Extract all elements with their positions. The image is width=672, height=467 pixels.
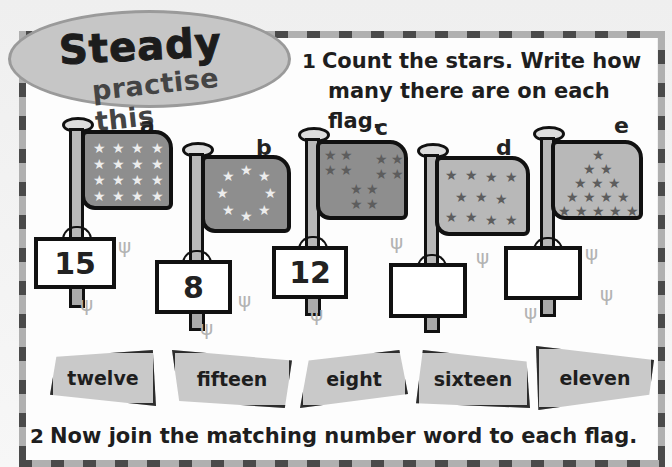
- star-icon: ★: [264, 186, 277, 200]
- star-icon: ★: [609, 204, 622, 218]
- star-icon: ★: [592, 148, 605, 162]
- flag-e-letter: e: [614, 113, 629, 138]
- star-icon: ★: [258, 169, 271, 183]
- star-icon: ★: [445, 168, 458, 182]
- word-card-label: fifteen: [197, 368, 268, 390]
- grass-icon: ψ: [310, 304, 323, 324]
- star-icon: ★: [391, 152, 404, 166]
- word-card-label: twelve: [67, 367, 138, 389]
- flag-d: ★ ★ ★ ★ ★ ★ ★ ★ ★ ★ ★: [435, 156, 530, 236]
- flag-b-answer-box[interactable]: 8: [155, 260, 232, 314]
- star-icon: ★: [258, 203, 271, 217]
- star-icon: ★: [600, 162, 613, 176]
- star-icon: ★: [566, 190, 579, 204]
- flag-c-answer-box[interactable]: 12: [272, 246, 348, 299]
- grass-icon: ψ: [524, 302, 537, 322]
- flag-c: ★ ★ ★ ★ ★ ★ ★ ★ ★ ★ ★ ★: [316, 140, 408, 220]
- flag-b-answer: 8: [183, 270, 204, 305]
- star-icon: ★: [324, 163, 337, 177]
- dashed-border-bottom: [19, 460, 665, 467]
- question-1-number: 1: [302, 49, 316, 73]
- star-icon: ★: [375, 152, 388, 166]
- grass-icon: ψ: [238, 290, 251, 310]
- star-icon: ★: [112, 173, 125, 187]
- star-icon: ★: [475, 190, 488, 204]
- word-card-label: eight: [326, 368, 382, 390]
- grass-icon: ψ: [200, 318, 213, 338]
- star-icon: ★: [495, 192, 508, 206]
- star-icon: ★: [93, 173, 106, 187]
- flag-e-answer-box[interactable]: [504, 246, 582, 300]
- star-icon: ★: [626, 204, 639, 218]
- question-1-line-2: many there are on each flag.: [302, 76, 652, 136]
- question-2: 2Now join the matching number word to ea…: [30, 421, 650, 451]
- question-1-line-1: Count the stars. Write how: [322, 49, 641, 73]
- star-icon: ★: [222, 203, 235, 217]
- word-card-label: eleven: [559, 367, 630, 389]
- star-icon: ★: [391, 167, 404, 181]
- star-icon: ★: [445, 210, 458, 224]
- star-icon: ★: [583, 162, 596, 176]
- star-icon: ★: [151, 173, 164, 187]
- star-icon: ★: [558, 204, 571, 218]
- word-card-label: sixteen: [434, 368, 512, 390]
- question-2-text: Now join the matching number word to eac…: [50, 424, 637, 448]
- star-icon: ★: [465, 168, 478, 182]
- star-icon: ★: [366, 182, 379, 196]
- flag-c-letter: c: [375, 115, 388, 140]
- star-icon: ★: [340, 163, 353, 177]
- question-2-number: 2: [30, 424, 44, 448]
- star-icon: ★: [93, 189, 106, 203]
- star-icon: ★: [151, 141, 164, 155]
- star-icon: ★: [505, 213, 518, 227]
- section-badge: Steady practise this: [8, 10, 291, 108]
- star-icon: ★: [350, 197, 363, 211]
- star-icon: ★: [151, 189, 164, 203]
- star-icon: ★: [112, 141, 125, 155]
- star-icon: ★: [131, 157, 144, 171]
- flag-c-answer: 12: [289, 255, 331, 290]
- dashed-border-left: [19, 31, 26, 467]
- star-icon: ★: [575, 204, 588, 218]
- grass-icon: ψ: [476, 247, 489, 267]
- star-icon: ★: [485, 170, 498, 184]
- grass-icon: ψ: [600, 284, 613, 304]
- grass-icon: ψ: [118, 236, 131, 256]
- star-icon: ★: [131, 189, 144, 203]
- star-icon: ★: [375, 167, 388, 181]
- flag-e-pole-base: [540, 300, 556, 317]
- star-icon: ★: [617, 190, 630, 204]
- flag-a: ★ ★ ★ ★ ★ ★ ★ ★ ★ ★ ★ ★ ★ ★ ★ ★: [81, 130, 173, 210]
- star-icon: ★: [465, 210, 478, 224]
- star-icon: ★: [131, 141, 144, 155]
- flag-a-answer: 15: [54, 246, 96, 281]
- star-icon: ★: [324, 148, 337, 162]
- star-icon: ★: [608, 176, 621, 190]
- star-icon: ★: [505, 170, 518, 184]
- star-icon: ★: [93, 141, 106, 155]
- grass-icon: ψ: [390, 232, 403, 252]
- star-icon: ★: [366, 197, 379, 211]
- dashed-border-right: [658, 31, 665, 467]
- star-icon: ★: [591, 176, 604, 190]
- flag-a-answer-box[interactable]: 15: [34, 237, 116, 289]
- star-icon: ★: [131, 173, 144, 187]
- star-icon: ★: [600, 190, 613, 204]
- star-icon: ★: [93, 157, 106, 171]
- star-icon: ★: [592, 204, 605, 218]
- grass-icon: ψ: [585, 243, 598, 263]
- star-icon: ★: [350, 182, 363, 196]
- star-icon: ★: [151, 157, 164, 171]
- star-icon: ★: [240, 209, 253, 223]
- star-icon: ★: [574, 176, 587, 190]
- star-icon: ★: [222, 169, 235, 183]
- flag-e: ★ ★ ★ ★ ★ ★ ★ ★ ★ ★ ★ ★ ★ ★ ★: [551, 140, 643, 220]
- grass-icon: ψ: [80, 294, 93, 314]
- flag-d-answer-box[interactable]: [389, 263, 467, 318]
- star-icon: ★: [240, 163, 253, 177]
- star-icon: ★: [216, 186, 229, 200]
- question-1: 1Count the stars. Write how many there a…: [302, 46, 652, 136]
- star-icon: ★: [112, 157, 125, 171]
- star-icon: ★: [583, 190, 596, 204]
- flag-d-pole-base: [424, 318, 440, 333]
